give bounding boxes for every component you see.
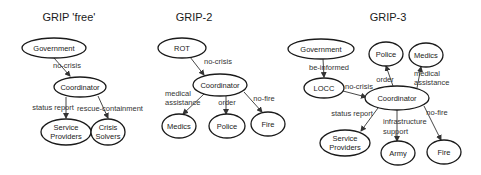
node-label: Police	[376, 50, 396, 59]
node-label: Providers	[50, 132, 82, 141]
edge-label: infrastructure	[383, 117, 427, 126]
edge-label: rescue-containment	[77, 104, 144, 113]
edge-label: medical	[165, 89, 191, 98]
edge-label: support	[383, 127, 409, 136]
node-label: Solvers	[95, 132, 120, 141]
diagram-canvas: GRIP 'free' Government Coordinator Servi…	[0, 0, 481, 175]
diagram-title: GRIP 'free'	[43, 11, 96, 23]
diagram-grip-3: GRIP-3 Government LOCC Police Medics Coo…	[288, 11, 461, 165]
node-label: Army	[389, 149, 407, 158]
edge-label: no-fire	[426, 108, 447, 117]
node-label: Coordinator	[377, 94, 417, 103]
edge-label: order	[376, 75, 394, 84]
edge-label: be-informed	[309, 63, 349, 72]
node-label: Medics	[414, 51, 438, 60]
edge-label: status report	[331, 109, 374, 118]
edge-label: no-crisis	[204, 57, 232, 66]
edge-label: order	[218, 98, 236, 107]
node-label: LOCC	[314, 84, 335, 93]
node-label: Police	[217, 122, 237, 131]
node-label: Medics	[167, 122, 191, 131]
node-label: Fire	[438, 148, 451, 157]
edge-label: assistance	[165, 98, 200, 107]
diagram-title: GRIP-2	[176, 11, 213, 23]
diagram-title: GRIP-3	[370, 11, 407, 23]
node-label: Service	[332, 134, 357, 143]
edge-label: no-crisis	[53, 61, 81, 70]
node-label: Government	[33, 44, 75, 53]
node-label: Fire	[262, 120, 275, 129]
edge-label: medical	[414, 69, 440, 78]
node-label: Crisis	[99, 123, 118, 132]
diagram-grip-free: GRIP 'free' Government Coordinator Servi…	[22, 11, 144, 145]
edge-label: no-fire	[253, 94, 274, 103]
edge-label: no-crisis	[345, 82, 373, 91]
node-label: Coordinator	[200, 81, 240, 90]
node-label: Providers	[329, 143, 361, 152]
diagram-grip-2: GRIP-2 ROT Coordinator Medics Police Fir…	[158, 11, 285, 138]
edge-label: status report	[32, 103, 75, 112]
edge-label: assistance	[414, 78, 449, 87]
node-label: Coordinator	[60, 83, 100, 92]
node-label: Service	[53, 123, 78, 132]
node-label: Government	[300, 45, 342, 54]
edge-locc-coordinator	[343, 91, 366, 97]
edge-rot-coordinator	[190, 57, 204, 75]
node-label: ROT	[174, 44, 190, 53]
